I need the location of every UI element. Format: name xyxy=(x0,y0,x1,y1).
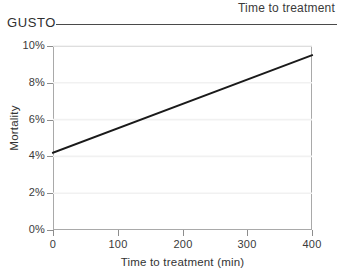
page-header: GUSTO Time to treatment xyxy=(0,0,337,38)
study-label: GUSTO xyxy=(7,15,56,30)
y-axis-tick-label: 2% xyxy=(29,186,45,198)
series-line xyxy=(53,55,312,153)
x-axis-tick-label: 300 xyxy=(225,238,269,250)
x-axis-tick xyxy=(247,230,248,236)
x-axis-tick xyxy=(183,230,184,236)
y-axis-tick xyxy=(47,120,53,121)
y-axis-tick xyxy=(47,156,53,157)
y-axis-tick-label: 4% xyxy=(29,149,45,161)
data-series-group xyxy=(53,55,312,153)
x-axis-tick xyxy=(312,230,313,236)
x-axis-tick xyxy=(53,230,54,236)
section-title: Time to treatment xyxy=(238,1,335,15)
y-axis-tick-label: 10% xyxy=(22,39,45,51)
x-axis-tick-label: 0 xyxy=(31,238,75,250)
header-divider xyxy=(56,24,337,25)
gridlines xyxy=(53,46,312,193)
y-axis-tick-label: 8% xyxy=(29,76,45,88)
y-axis-tick xyxy=(47,193,53,194)
x-axis-tick-label: 400 xyxy=(290,238,334,250)
y-axis-tick xyxy=(47,83,53,84)
y-axis-tick-label: 0% xyxy=(29,223,45,235)
x-axis-tick-label: 200 xyxy=(161,238,205,250)
y-axis-tick-label: 6% xyxy=(29,113,45,125)
y-axis-title: Mortality xyxy=(8,92,20,164)
y-axis-tick xyxy=(47,46,53,47)
x-axis-title: Time to treatment (min) xyxy=(53,256,312,268)
plot-canvas xyxy=(53,46,312,230)
x-axis-tick-label: 100 xyxy=(96,238,140,250)
x-axis-tick xyxy=(118,230,119,236)
line-chart: 0%2%4%6%8%10% 0100200300400 Time to trea… xyxy=(0,38,337,279)
chart-page: GUSTO Time to treatment 0%2%4%6%8%10% 01… xyxy=(0,0,337,279)
